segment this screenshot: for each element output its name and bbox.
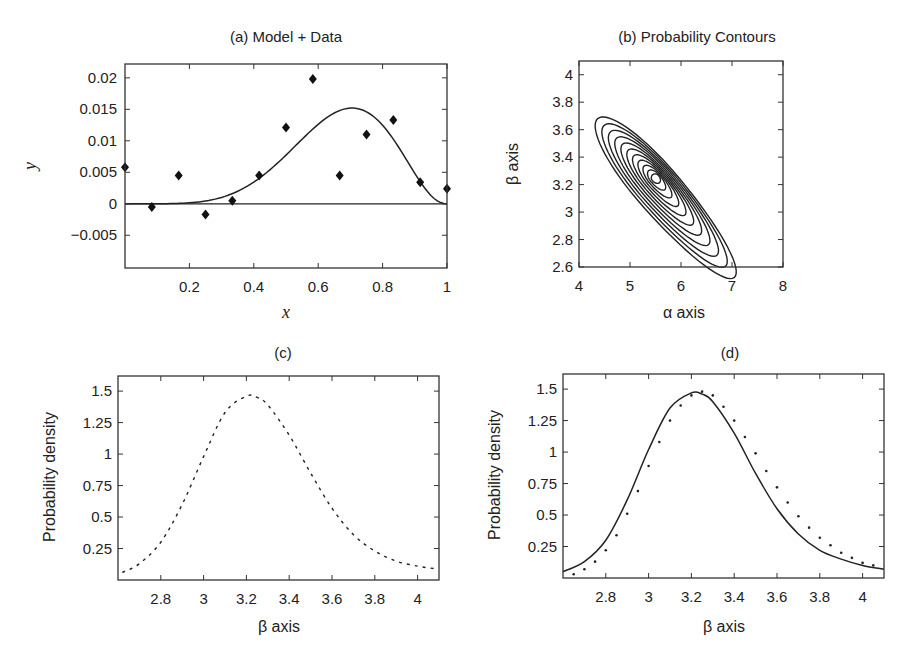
y-tick-label: 3.6	[552, 121, 573, 138]
panel-c-xlabel: β axis	[258, 618, 300, 635]
panel-c: (c) 2.833.23.43.63.841.51.2510.750.50.25…	[41, 344, 439, 635]
approximation-dot	[647, 465, 650, 468]
x-tick-label: 0.2	[179, 278, 200, 295]
x-tick-label: 3.2	[681, 588, 702, 605]
panel-d-plot	[563, 390, 884, 575]
data-point	[175, 170, 183, 180]
approximation-dot	[754, 452, 757, 455]
approximation-dot	[637, 490, 640, 493]
x-tick-label: 4	[858, 588, 866, 605]
data-point	[389, 115, 397, 125]
x-tick-label: 3.6	[322, 590, 343, 607]
x-tick-label: 8	[779, 277, 787, 294]
panel-c-ticks: 2.833.23.43.63.841.51.2510.750.50.25	[83, 376, 439, 607]
y-tick-label: 0.25	[528, 538, 557, 555]
y-tick-label: 2.6	[552, 258, 573, 275]
data-point	[282, 123, 290, 133]
x-tick-label: 3.2	[236, 590, 257, 607]
y-tick-label: 1	[549, 443, 557, 460]
panel-c-frame	[118, 376, 439, 580]
data-point	[255, 170, 263, 180]
data-point	[202, 209, 210, 219]
data-point	[309, 74, 317, 84]
x-tick-label: 7	[728, 277, 736, 294]
panel-d: (d) 2.833.23.43.63.841.51.2510.750.50.25…	[486, 344, 884, 635]
panel-b: (b) Probability Contours 4567843.83.63.4…	[504, 28, 787, 321]
y-tick-label: 3.2	[552, 176, 573, 193]
y-tick-label: 1.5	[91, 382, 112, 399]
y-tick-label: 1	[104, 445, 112, 462]
approximation-dot	[669, 419, 672, 422]
approximation-dot	[765, 470, 768, 473]
panel-b-xlabel: α axis	[663, 304, 705, 321]
x-tick-label: 1	[443, 278, 451, 295]
panel-a-title: (a) Model + Data	[230, 28, 343, 45]
y-tick-label: 1.25	[83, 414, 112, 431]
panel-b-ylabel: β axis	[504, 143, 521, 185]
x-tick-label: 3	[199, 590, 207, 607]
y-tick-label: 3.8	[552, 93, 573, 110]
x-tick-label: 3.4	[724, 588, 745, 605]
x-tick-label: 3.4	[279, 590, 300, 607]
panel-a-ticks: 0.20.40.60.810.020.0150.010.0050−0.005	[71, 64, 451, 295]
x-tick-label: 0.6	[308, 278, 329, 295]
x-tick-label: 3.8	[809, 588, 830, 605]
probability-contour	[595, 117, 736, 279]
approximation-dot	[594, 560, 597, 563]
y-tick-label: 0.75	[528, 475, 557, 492]
probability-contour	[602, 124, 727, 267]
x-tick-label: 2.8	[150, 590, 171, 607]
approximation-dot	[808, 526, 811, 529]
panel-a-plot	[121, 74, 451, 219]
panel-c-plot	[122, 395, 434, 572]
approximation-dot	[840, 552, 843, 555]
x-tick-label: 4	[413, 590, 421, 607]
figure: (a) Model + Data 0.20.40.60.810.020.0150…	[0, 0, 910, 659]
probability-contour	[651, 174, 660, 184]
panel-c-ylabel: Probability density	[41, 412, 58, 542]
approximation-dot	[776, 486, 779, 489]
approximation-dot	[829, 544, 832, 547]
panel-a-frame	[125, 64, 447, 268]
approximation-dot	[733, 419, 736, 422]
probability-contour	[608, 130, 718, 256]
panel-a-ylabel: y	[20, 162, 40, 172]
panel-d-frame	[563, 374, 884, 578]
approximation-dot	[744, 436, 747, 439]
approximation-dot	[872, 564, 875, 567]
approximation-dot	[712, 394, 715, 397]
panel-d-xlabel: β axis	[703, 618, 745, 635]
panel-c-title: (c)	[274, 344, 292, 361]
y-tick-label: 1.5	[536, 380, 557, 397]
approximation-dot	[797, 515, 800, 518]
panel-b-title: (b) Probability Contours	[618, 28, 776, 45]
probability-contour	[615, 137, 710, 246]
panel-a: (a) Model + Data 0.20.40.60.810.020.0150…	[20, 28, 451, 322]
model-curve	[125, 108, 447, 204]
approximation-dot	[851, 557, 854, 560]
density-curve-dashed	[122, 395, 434, 572]
x-tick-label: 5	[626, 277, 634, 294]
approximation-dot	[658, 441, 661, 444]
panel-d-ticks: 2.833.23.43.63.841.51.2510.750.50.25	[528, 374, 884, 605]
approximation-dot	[572, 573, 575, 576]
approximation-dot	[861, 562, 864, 565]
x-tick-label: 0.4	[243, 278, 264, 295]
approximation-dot	[615, 534, 618, 537]
approximation-dot	[722, 405, 725, 408]
approximation-dot	[701, 390, 704, 393]
x-tick-label: 6	[677, 277, 685, 294]
y-tick-label: −0.005	[71, 226, 117, 243]
y-tick-label: 0.005	[79, 163, 117, 180]
density-curve-solid	[563, 392, 884, 572]
panel-a-xlabel: x	[281, 302, 290, 322]
data-point	[363, 130, 371, 140]
panel-d-title: (d)	[721, 344, 739, 361]
approximation-dot	[786, 501, 789, 504]
data-point	[336, 170, 344, 180]
y-tick-label: 0.25	[83, 540, 112, 557]
y-tick-label: 0.5	[536, 506, 557, 523]
y-tick-label: 2.8	[552, 231, 573, 248]
y-tick-label: 0	[109, 195, 117, 212]
y-tick-label: 0.75	[83, 477, 112, 494]
